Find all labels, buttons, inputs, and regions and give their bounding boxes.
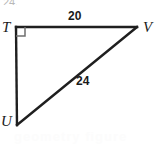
vertex-label-u: U (1, 114, 12, 129)
side-length-label-tv: 20 (68, 10, 81, 22)
vertex-label-v: V (143, 20, 152, 35)
side-length-label-uv: 24 (76, 75, 89, 87)
vertex-label-t: T (2, 20, 10, 35)
side-tu-line (16, 27, 17, 125)
geometry-figure: 24. T V U 20 24 geometry figure (0, 0, 157, 151)
bottom-watermark-artifact: geometry figure (14, 130, 140, 144)
right-angle-marker-icon (16, 27, 25, 36)
